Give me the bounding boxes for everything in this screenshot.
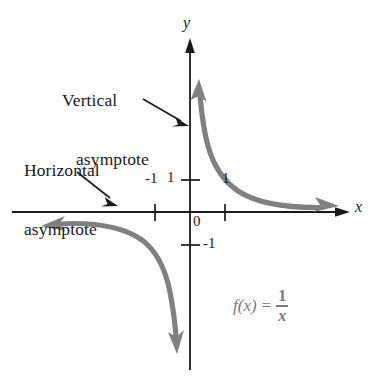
function-formula: f(x) = 1 x <box>233 288 288 324</box>
y-tick-label-pos1: 1 <box>167 169 175 186</box>
formula-fraction: 1 x <box>276 288 288 324</box>
figure-root: Vertical asymptote Horizontal asymptote … <box>0 0 379 382</box>
formula-numerator: 1 <box>276 288 288 305</box>
horizontal-asymptote-label-line2: asymptote <box>24 220 100 240</box>
origin-label: 0 <box>193 213 201 230</box>
x-tick-label-pos1: 1 <box>222 170 230 187</box>
y-axis-arrowhead <box>185 38 195 53</box>
x-tick-label-neg1: -1 <box>145 170 158 187</box>
x-axis-arrowhead <box>335 207 350 217</box>
y-axis-label: y <box>183 14 190 32</box>
formula-equals-sign: = <box>262 296 272 315</box>
vertical-asymptote-arrowhead <box>172 118 189 127</box>
x-axis-label: x <box>355 198 362 216</box>
curve-path-positive <box>200 96 322 208</box>
curve-branch-positive <box>191 79 340 212</box>
formula-denominator: x <box>276 307 288 324</box>
horizontal-asymptote-label-line1: Horizontal <box>24 161 100 181</box>
y-tick-label-neg1: -1 <box>203 235 216 252</box>
vertical-asymptote-label-line1: Vertical <box>62 91 149 111</box>
formula-function-name: f(x) <box>233 296 257 315</box>
horizontal-asymptote-label: Horizontal asymptote <box>24 122 100 279</box>
